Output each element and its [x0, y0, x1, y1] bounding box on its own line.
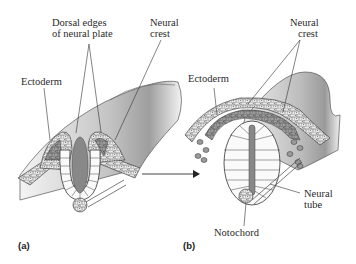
label-ectoderm-b: Ectoderm	[188, 73, 229, 84]
label-neural-crest-a-line1: Neural	[150, 17, 179, 28]
right-arrow	[142, 170, 200, 178]
label-ectoderm-a: Ectoderm	[21, 76, 62, 87]
label-neural-crest-b-line2: crest	[298, 28, 318, 39]
label-neural-tube-line1: Neural	[304, 188, 333, 199]
panel-label-a: (a)	[18, 240, 30, 251]
neural-tube-formation-diagram: Dorsal edges of neural plate Neural cres…	[0, 0, 356, 264]
diagram-artwork	[0, 0, 356, 264]
label-notochord: Notochord	[214, 227, 259, 238]
label-dorsal-edges-line1: Dorsal edges	[52, 17, 107, 28]
label-neural-tube-line2: tube	[304, 199, 322, 210]
label-neural-crest-b-line1: Neural	[290, 17, 319, 28]
panel-label-b: (b)	[183, 240, 195, 251]
label-neural-crest-a-line2: crest	[150, 28, 170, 39]
panel-a-artwork	[18, 40, 182, 212]
label-dorsal-edges-line2: of neural plate	[52, 28, 113, 39]
